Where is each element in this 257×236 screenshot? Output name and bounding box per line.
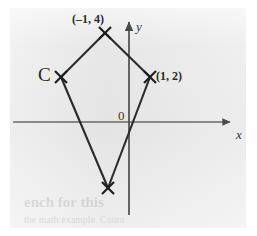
vertex-marker-left-c [55,71,67,83]
y-axis-label: y [136,19,142,35]
x-axis-label: x [236,127,242,143]
vertex-marker-top [99,27,111,39]
kite-edge-top-right [105,33,150,77]
vertex-label-c: C [38,64,51,86]
origin-label: 0 [118,108,125,124]
figure-root: ench for this the math example. Count [0,0,257,236]
vertex-label-right: (1, 2) [156,69,182,84]
vertex-label-top: (–1, 4) [72,12,104,27]
vertex-marker-right [144,71,156,83]
vertex-marker-bottom [102,182,114,194]
kite-outline [61,33,150,188]
kite-edge-left-top [61,33,105,77]
coordinate-plane-svg [0,0,257,236]
kite-edge-bottom-left [61,77,108,188]
